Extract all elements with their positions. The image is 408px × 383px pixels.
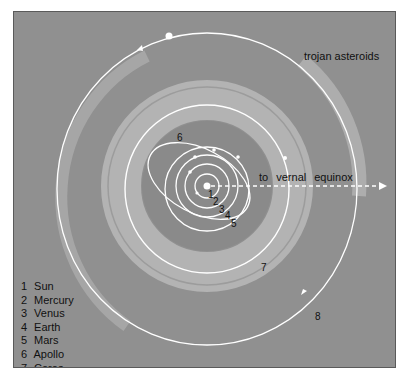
legend-item: 4 Earth — [21, 321, 74, 335]
orbit-label-2: 2 — [213, 196, 219, 207]
vernal-equinox-label: to vernal equinox — [259, 171, 353, 183]
legend-item: 7 Ceres — [21, 362, 74, 368]
jupiter-direction-arrow-lower — [301, 289, 307, 295]
legend: 1 Sun 2 Mercury 3 Venus 4 Earth 5 Mars 6… — [21, 280, 74, 368]
jupiter-dot — [166, 33, 173, 40]
ceres-dot — [283, 156, 287, 160]
trojan-asteroids-label: trojan asteroids — [304, 50, 379, 63]
legend-item: 2 Mercury — [21, 294, 74, 308]
vernal-equinox-arrowhead — [379, 182, 387, 190]
earth-dot — [193, 155, 197, 159]
orbit-label-7: 7 — [261, 262, 267, 273]
jupiter-direction-arrow — [137, 45, 143, 51]
orbit-label-4: 4 — [225, 210, 231, 221]
legend-item: 5 Mars — [21, 334, 74, 348]
apollo-dot — [212, 148, 216, 152]
venus-dot — [188, 170, 192, 174]
mercury-dot — [195, 191, 198, 194]
legend-item: 6 Apollo — [21, 348, 74, 362]
legend-item: 3 Venus — [21, 307, 74, 321]
orbit-label-6: 6 — [177, 132, 183, 143]
orbit-label-3: 3 — [219, 204, 225, 215]
mars-dot — [236, 155, 240, 159]
legend-item: 1 Sun — [21, 280, 74, 294]
orbit-label-5: 5 — [231, 218, 237, 229]
solar-system-diagram-panel: 1 2 3 4 5 6 7 8 trojan asteroids to vern… — [13, 11, 396, 368]
orbit-label-8: 8 — [315, 311, 321, 322]
